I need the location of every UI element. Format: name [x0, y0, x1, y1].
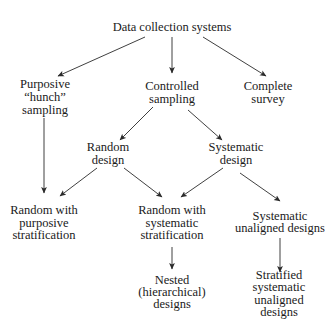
- node-random-design: Random design: [87, 140, 130, 167]
- edge-systematic-design-to-random-systematic: [181, 168, 223, 197]
- node-label-line: Controlled: [145, 79, 199, 93]
- node-data-collection-systems: Data collection systems: [113, 20, 232, 34]
- node-label-line: Random: [87, 140, 130, 154]
- node-random-with-systematic-stratification: Random with systematic stratification: [138, 203, 206, 242]
- node-label-line: Complete: [244, 79, 293, 93]
- node-nested-hierarchical-designs: Nested (hierarchical) designs: [138, 273, 205, 311]
- node-systematic-design: Systematic design: [209, 140, 264, 167]
- node-label-line: sampling: [149, 92, 196, 106]
- node-purposive-hunch-sampling: Purposive “hunch” sampling: [20, 77, 70, 117]
- node-label-line: Data collection systems: [113, 20, 232, 34]
- node-label-line: designs: [260, 305, 298, 319]
- edge-random-design-to-random-purposive: [60, 168, 97, 196]
- edge-systematic-design-to-systematic-unaligned: [240, 173, 280, 201]
- node-label-line: unaligned designs: [235, 221, 325, 235]
- node-label-line: design: [92, 153, 125, 167]
- edge-controlled-to-systematic-design: [188, 110, 222, 140]
- edge-root-to-complete: [203, 37, 266, 76]
- node-controlled-sampling: Controlled sampling: [145, 79, 199, 106]
- edge-root-to-purposive: [58, 37, 145, 76]
- node-complete-survey: Complete survey: [244, 79, 293, 106]
- node-stratified-systematic-unaligned-designs: Stratified systematic unaligned designs: [253, 268, 306, 319]
- node-label-line: survey: [251, 92, 285, 106]
- node-random-with-purposive-stratification: Random with purposive stratification: [10, 203, 78, 242]
- node-label-line: designs: [153, 297, 191, 311]
- data-collection-diagram: Data collection systems Purposive “hunch…: [0, 0, 336, 333]
- node-label-line: Random with: [10, 203, 78, 217]
- node-label-line: Purposive: [20, 77, 70, 91]
- edge-random-design-to-random-systematic: [124, 168, 162, 197]
- node-label-line: systematic: [253, 280, 306, 294]
- node-label-line: Random with: [138, 203, 206, 217]
- node-label-line: “hunch”: [24, 90, 66, 104]
- node-label-line: Systematic: [209, 140, 264, 154]
- node-label-line: design: [220, 153, 253, 167]
- node-label-line: sampling: [22, 103, 69, 117]
- edge-controlled-to-random-design: [120, 107, 153, 140]
- node-label-line: stratification: [140, 228, 204, 242]
- node-label-line: stratification: [12, 228, 76, 242]
- node-systematic-unaligned-designs: Systematic unaligned designs: [235, 209, 325, 235]
